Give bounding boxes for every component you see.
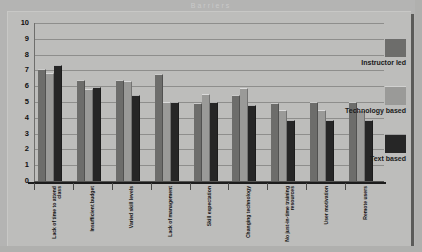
legend-swatch (385, 86, 406, 105)
legend-swatch (385, 38, 406, 57)
x-axis-line (28, 182, 386, 184)
bar (279, 110, 287, 181)
category-label: Insufficient budget (90, 186, 95, 244)
y-axis-tick-label: 9 (25, 35, 29, 43)
bar (232, 95, 240, 181)
chart-title: Barriers (0, 0, 422, 11)
bar-group (310, 23, 333, 181)
bar (38, 69, 46, 181)
bar (210, 102, 218, 181)
category-axis-labels: Lack of time to attend classInsufficient… (34, 186, 384, 246)
axis-tick-mark (151, 183, 152, 190)
legend-label: Technology based (338, 107, 406, 115)
y-axis-tick-label: 4 (25, 114, 29, 122)
bar-group (155, 23, 178, 181)
legend-item[interactable]: Text based (338, 134, 406, 163)
legend-label: Text based (338, 155, 406, 163)
legend-item[interactable]: Instructor led (338, 38, 406, 67)
y-axis-tick-label: 6 (25, 82, 29, 90)
axis-tick-mark (306, 183, 307, 190)
bar-group (232, 23, 255, 181)
category-label: Changing technology (246, 186, 251, 244)
category-label: Remote users (363, 186, 368, 244)
bar (194, 103, 202, 181)
axis-tick-mark (73, 183, 74, 190)
frame-right-edge (415, 0, 422, 252)
y-axis-tick-label: 8 (25, 51, 29, 59)
y-axis-tick-label: 7 (25, 67, 29, 75)
bar (93, 87, 101, 181)
chart-page: Barriers 012345678910 Lack of time to at… (0, 0, 422, 252)
y-axis-tick-label: 2 (25, 146, 29, 154)
bar (171, 102, 179, 181)
y-axis-tick-label: 10 (21, 19, 29, 27)
axis-tick-mark (112, 183, 113, 190)
legend-swatch (385, 134, 406, 153)
bar (132, 95, 140, 181)
bar-group (116, 23, 139, 181)
frame-bottom-edge (0, 246, 422, 252)
bar (124, 81, 132, 181)
bar (46, 73, 54, 181)
bar (310, 102, 318, 181)
bar-group (77, 23, 100, 181)
bar (85, 89, 93, 181)
category-label: Lack of management (168, 186, 173, 244)
bar (155, 74, 163, 181)
bar (287, 120, 295, 181)
bar (248, 105, 256, 181)
bar (318, 110, 326, 181)
bar (326, 120, 334, 181)
legend-label: Instructor led (338, 59, 406, 67)
bar-series-container (34, 23, 384, 181)
axis-tick-mark (34, 183, 35, 190)
bar (163, 102, 171, 181)
bar (271, 103, 279, 181)
category-label: User motivation (324, 186, 329, 244)
bar (116, 80, 124, 181)
bar (77, 80, 85, 181)
bar-group (194, 23, 217, 181)
bar (240, 88, 248, 181)
y-axis-tick-label: 5 (25, 98, 29, 106)
y-axis-tick-label: 1 (25, 161, 29, 169)
axis-tick-mark (267, 183, 268, 190)
axis-tick-mark (228, 183, 229, 190)
category-label: Lack of time to attend class (52, 186, 63, 244)
axis-tick-mark (190, 183, 191, 190)
chart-legend: Instructor ledTechnology basedText based (338, 38, 406, 178)
category-label: No just-in-time training resources (285, 186, 296, 244)
category-label: Varied skill levels (129, 186, 134, 244)
bar (54, 65, 62, 181)
legend-item[interactable]: Technology based (338, 86, 406, 115)
chart-plate: 012345678910 Lack of time to attend clas… (7, 11, 411, 246)
y-axis-tick-label: 3 (25, 130, 29, 138)
bar-group (271, 23, 294, 181)
bar-group (38, 23, 61, 181)
axis-tick-mark (345, 183, 346, 190)
bar (202, 94, 210, 181)
category-label: Skill expectation (207, 186, 212, 244)
